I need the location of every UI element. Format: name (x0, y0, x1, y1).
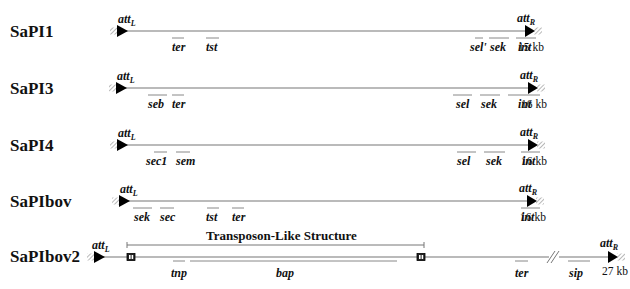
gene-seb: seb (147, 95, 167, 111)
gene-label: int (518, 97, 532, 111)
gene-bap: bap (190, 261, 397, 280)
att-site-hatch-icon (537, 142, 545, 149)
island-name: SaPIbov (10, 192, 72, 211)
att-l-label: attL (120, 182, 138, 198)
island-sapi4: SaPI4attLattR16 kbsec1semselsekint (10, 125, 547, 168)
att-r-label: attR (520, 125, 539, 141)
att-site-hatch-icon (110, 142, 118, 149)
att-r-label: attR (600, 236, 619, 252)
att-site-hatch-icon (110, 28, 118, 35)
gene-sek: sek (489, 38, 509, 54)
att-site-hatch-icon (537, 85, 545, 92)
gene-ter: ter (172, 95, 186, 111)
att-l-label: attL (117, 69, 135, 85)
island-name: SaPI3 (10, 79, 53, 98)
att-r-label-subscript: R (532, 132, 539, 141)
att-l-label-text: att (120, 182, 133, 196)
att-l-label-subscript: L (129, 76, 135, 85)
gene-label: tst (206, 210, 218, 224)
gene-label: seb (147, 97, 164, 111)
gene-sel: sel (453, 95, 472, 111)
att-r-label: attR (517, 11, 536, 27)
gene-label: sel (456, 154, 471, 168)
att-r-label-subscript: R (532, 75, 539, 84)
sequence-break-icon (551, 251, 559, 263)
gene-ter: ter (232, 208, 246, 224)
gene-label: sel' (469, 40, 487, 54)
att-l-label: attL (118, 12, 136, 28)
gene-label: ter (172, 97, 186, 111)
gene-label: sem (175, 154, 195, 168)
gene-label: sip (568, 266, 583, 280)
arrow-right-icon (608, 251, 618, 263)
gene-tst: tst (206, 38, 219, 54)
att-r-label-text: att (520, 68, 533, 82)
att-l-label-text: att (92, 238, 105, 252)
gene-label: int (521, 210, 535, 224)
island-sapi3: SaPI3attLattR16 kbsebterselsekint (10, 68, 547, 111)
island-name: SaPIbov2 (10, 247, 80, 266)
gene-label: int (522, 154, 536, 168)
island-size: 27 kb (602, 265, 628, 277)
gene-label: ter (515, 266, 529, 280)
att-l-label-subscript: L (130, 133, 136, 142)
att-r-label-text: att (519, 181, 532, 195)
arrow-right-icon (117, 139, 128, 151)
att-l-label: attL (92, 238, 110, 254)
inverted-repeat-box-icon (127, 254, 135, 261)
att-site-hatch-icon (109, 85, 117, 92)
gene-label: bap (276, 266, 294, 280)
att-site-hatch-icon (534, 28, 542, 35)
gene-sel-prime: sel' (469, 38, 487, 54)
att-r-label-subscript: R (529, 18, 536, 27)
gene-label: ter (172, 40, 186, 54)
att-l-label-text: att (117, 69, 130, 83)
gene-label: sek (133, 210, 150, 224)
gene-label: sec (159, 210, 176, 224)
att-l-label-text: att (118, 12, 131, 26)
gene-sek: sek (133, 208, 152, 224)
gene-sip: sip (568, 261, 590, 280)
sapi-diagram: SaPI1attLattR15 kbtertstsel'sekintSaPI3a… (0, 0, 630, 289)
arrow-right-icon (119, 195, 130, 207)
gene-label: sek (480, 97, 497, 111)
island-name: SaPI4 (10, 136, 54, 155)
transposon-label: Transposon-Like Structure (206, 228, 357, 243)
gene-sel: sel (456, 152, 476, 168)
gene-label: ter (232, 210, 246, 224)
gene-ter: ter (172, 38, 186, 54)
att-site-hatch-icon (617, 254, 625, 261)
gene-label: tnp (171, 266, 187, 280)
att-l-label-subscript: L (104, 245, 110, 254)
att-site-hatch-icon (87, 254, 95, 261)
att-l-label-subscript: L (132, 189, 138, 198)
gene-sem: sem (175, 152, 195, 168)
inverted-repeat-box-icon (417, 254, 425, 261)
gene-label: tst (206, 40, 218, 54)
att-r-label: attR (520, 68, 539, 84)
gene-label: sec1 (145, 154, 167, 168)
island-sapi1: SaPI1attLattR15 kbtertstsel'sekint (10, 11, 544, 54)
sapibov2-island: SaPIbov2attLattR27 kbTransposon-Like Str… (10, 228, 628, 280)
gene-label: sek (485, 154, 502, 168)
island-name: SaPI1 (10, 22, 53, 41)
gene-tnp: tnp (171, 261, 187, 280)
gene-sec: sec (159, 208, 176, 224)
att-site-hatch-icon (112, 198, 120, 205)
gene-sec1: sec1 (145, 152, 167, 168)
arrow-right-icon (117, 25, 128, 37)
att-r-label-subscript: R (531, 188, 538, 197)
gene-sek: sek (484, 152, 505, 168)
islands-layer: SaPI1attLattR15 kbtertstsel'sekintSaPI3a… (10, 11, 547, 224)
gene-ter: ter (515, 261, 529, 280)
att-r-label: attR (519, 181, 538, 197)
gene-label: int (518, 40, 532, 54)
att-l-label-subscript: L (130, 19, 136, 28)
gene-label: sel (455, 97, 470, 111)
arrow-right-icon (94, 251, 105, 263)
arrow-right-icon (116, 82, 127, 94)
att-r-label-subscript: R (612, 243, 619, 252)
gene-sek: sek (480, 95, 500, 111)
island-sapibov: SaPIbovattLattR16 kbseksectstterint (10, 181, 546, 224)
gene-label: sek (489, 40, 506, 54)
